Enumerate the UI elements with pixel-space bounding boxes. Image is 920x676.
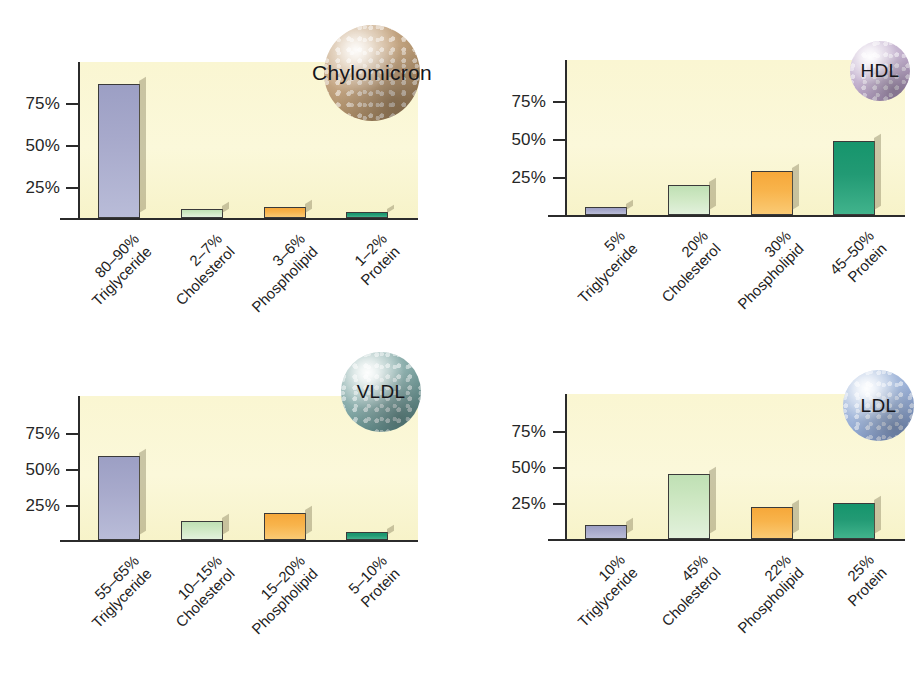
sphere-label: VLDL: [357, 381, 406, 403]
y-axis-line: [78, 62, 80, 220]
y-tick-25: [66, 505, 78, 507]
y-tick-label-75: 75%: [498, 422, 546, 442]
lipoprotein-sphere-icon: Chylomicron: [324, 25, 420, 121]
y-tick-25: [553, 177, 565, 179]
panel-chylomicron: 75% 50% 25% 80–90% Triglyceride 2–7% Cho…: [0, 0, 460, 338]
x-axis-line: [548, 539, 905, 541]
sphere-label: LDL: [861, 395, 897, 417]
y-tick-label-50: 50%: [12, 460, 60, 480]
bar-cholesterol[interactable]: [668, 474, 710, 539]
y-tick-50: [553, 467, 565, 469]
y-axis-line: [565, 60, 567, 217]
y-tick-25: [553, 503, 565, 505]
y-tick-label-25: 25%: [498, 168, 546, 188]
y-tick-label-50: 50%: [498, 130, 546, 150]
y-tick-label-50: 50%: [12, 136, 60, 156]
panel-hdl: 75% 50% 25% 5% Triglyceride 20% Choleste…: [460, 0, 920, 338]
y-tick-75: [553, 431, 565, 433]
bar-protein[interactable]: [346, 212, 388, 218]
bar-phospholipid[interactable]: [751, 507, 793, 539]
y-tick-label-25: 25%: [12, 496, 60, 516]
bar-triglyceride[interactable]: [98, 456, 140, 540]
bar-protein[interactable]: [346, 532, 388, 540]
bar-cholesterol[interactable]: [181, 521, 223, 540]
bar-phospholipid[interactable]: [264, 513, 306, 540]
bar-triglyceride[interactable]: [585, 525, 627, 539]
bar-cholesterol[interactable]: [668, 185, 710, 215]
y-tick-50: [66, 145, 78, 147]
bar-protein[interactable]: [833, 503, 875, 539]
y-tick-label-75: 75%: [12, 94, 60, 114]
bar-phospholipid[interactable]: [264, 207, 306, 218]
lipoprotein-sphere-icon: VLDL: [341, 352, 421, 432]
bar-phospholipid[interactable]: [751, 171, 793, 215]
y-tick-75: [553, 101, 565, 103]
y-tick-50: [66, 469, 78, 471]
sphere-label: HDL: [861, 60, 900, 82]
y-tick-25: [66, 187, 78, 189]
panel-ldl: 75% 50% 25% 10% Triglyceride 45% Cholest…: [460, 338, 920, 676]
y-axis-line: [78, 396, 80, 542]
y-tick-75: [66, 433, 78, 435]
x-axis-line: [60, 540, 418, 542]
lipoprotein-composition-figure: 75% 50% 25% 80–90% Triglyceride 2–7% Cho…: [0, 0, 920, 676]
y-tick-75: [66, 103, 78, 105]
bar-triglyceride[interactable]: [98, 84, 140, 218]
panel-vldl: 75% 50% 25% 55–65% Triglyceride 10–15% C…: [0, 338, 460, 676]
bar-protein[interactable]: [833, 141, 875, 215]
x-axis-line: [548, 215, 905, 217]
sphere-label: Chylomicron: [312, 61, 432, 85]
lipoprotein-sphere-icon: HDL: [850, 41, 910, 101]
x-axis-line: [60, 218, 418, 220]
y-axis-line: [565, 394, 567, 541]
bar-cholesterol[interactable]: [181, 209, 223, 218]
y-tick-50: [553, 139, 565, 141]
bar-triglyceride[interactable]: [585, 207, 627, 215]
y-tick-label-25: 25%: [498, 494, 546, 514]
y-tick-label-75: 75%: [12, 424, 60, 444]
y-tick-label-25: 25%: [12, 178, 60, 198]
lipoprotein-sphere-icon: LDL: [843, 370, 914, 441]
y-tick-label-50: 50%: [498, 458, 546, 478]
y-tick-label-75: 75%: [498, 92, 546, 112]
